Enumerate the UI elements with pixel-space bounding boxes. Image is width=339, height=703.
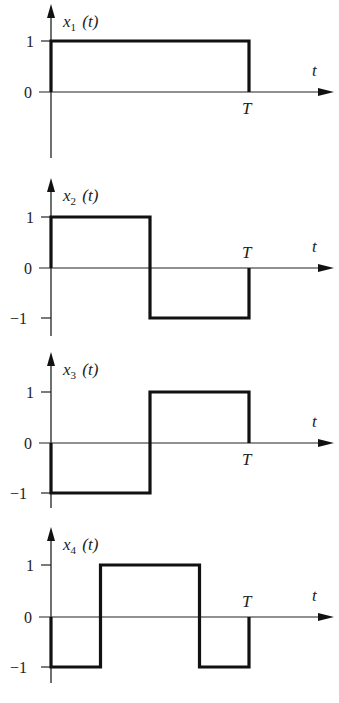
waveform-line bbox=[51, 41, 249, 92]
y-axis-arrow-icon bbox=[47, 352, 55, 366]
plot-4: 10−1x4 (t)tT bbox=[10, 527, 334, 683]
x-axis-arrow-icon bbox=[318, 264, 334, 272]
ytick-label-0: 0 bbox=[24, 609, 32, 626]
plot-3: 10−1x3 (t)tT bbox=[10, 352, 334, 508]
ytick-label-0: 0 bbox=[24, 84, 32, 101]
ytick-label-1: 1 bbox=[26, 557, 34, 574]
ytick-label-minus-1: −1 bbox=[10, 310, 27, 327]
y-axis-label: x4 (t) bbox=[62, 535, 99, 556]
xtick-label-T: T bbox=[242, 592, 253, 611]
xtick-label-T: T bbox=[242, 243, 253, 262]
ytick-label-1: 1 bbox=[26, 33, 34, 50]
ytick-label-0: 0 bbox=[24, 260, 32, 277]
x-axis-arrow-icon bbox=[318, 613, 334, 621]
plot-2: 10−1x2 (t)tT bbox=[10, 178, 334, 336]
x-axis-arrow-icon bbox=[318, 88, 334, 96]
ytick-label-minus-1: −1 bbox=[10, 485, 27, 502]
ytick-label-0: 0 bbox=[24, 435, 32, 452]
y-axis-label: x3 (t) bbox=[62, 360, 99, 381]
waveform-line bbox=[51, 565, 249, 667]
x-axis-label: t bbox=[312, 237, 318, 256]
y-axis-arrow-icon bbox=[47, 4, 55, 18]
ytick-label-minus-1: −1 bbox=[10, 659, 27, 676]
y-axis-label: x2 (t) bbox=[62, 186, 99, 207]
ytick-label-1: 1 bbox=[26, 209, 34, 226]
xtick-label-T: T bbox=[242, 450, 253, 469]
ytick-label-1: 1 bbox=[26, 384, 34, 401]
y-axis-arrow-icon bbox=[47, 527, 55, 541]
x-axis-label: t bbox=[312, 586, 318, 605]
waveform-figure: 10x1 (t)tT10−1x2 (t)tT10−1x3 (t)tT10−1x4… bbox=[0, 0, 339, 703]
y-axis-arrow-icon bbox=[47, 178, 55, 192]
x-axis-label: t bbox=[312, 61, 318, 80]
y-axis-label: x1 (t) bbox=[62, 12, 99, 33]
xtick-label-T: T bbox=[242, 99, 253, 118]
x-axis-arrow-icon bbox=[318, 439, 334, 447]
plot-1: 10x1 (t)tT bbox=[24, 4, 334, 158]
x-axis-label: t bbox=[312, 412, 318, 431]
